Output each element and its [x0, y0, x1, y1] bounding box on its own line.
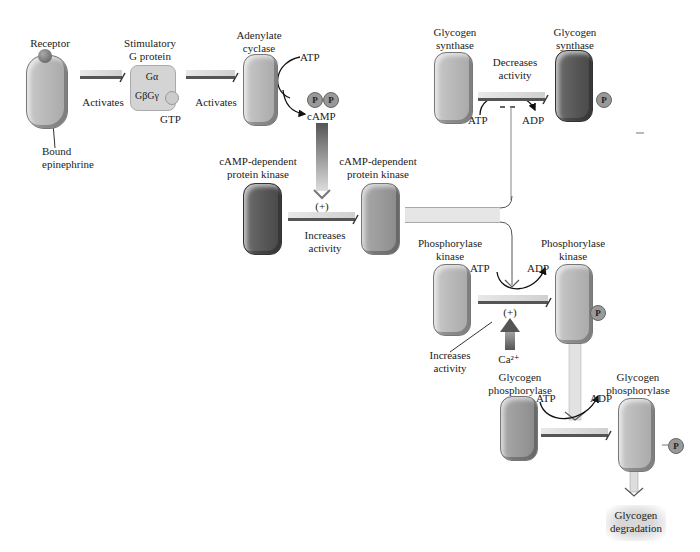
phk-label-1a: Phosphorylase: [415, 237, 485, 250]
camp-label: cAMP: [307, 110, 336, 123]
increases-label-2: Increases: [420, 349, 480, 362]
decreases-label-2: activity: [480, 69, 550, 82]
phk-bar: [478, 295, 548, 303]
degradation-label-1: Glycogen: [606, 509, 666, 522]
bound-label-1: Bound: [42, 145, 71, 158]
plus-label-1: (+): [312, 200, 332, 213]
calcium-label: Ca²⁺: [497, 353, 521, 366]
pathway-arrows: [0, 0, 700, 552]
gs-label-1a: Glycogen: [425, 26, 485, 39]
activates-label-2: Activates: [186, 96, 246, 109]
g-alpha-label: Gα: [140, 70, 164, 83]
pka-inactive-label-1: cAMP-dependent: [218, 155, 298, 168]
adenylate-cyclase: [243, 54, 278, 126]
gtp-label: GTP: [160, 113, 181, 126]
atp-gp-label: ATP: [536, 392, 556, 405]
gp-label-2b: phosphorylase: [603, 384, 673, 397]
activates-bar-1: [80, 70, 122, 78]
phosphorylase-kinase-active: [555, 264, 593, 344]
gp-label-1a: Glycogen: [485, 371, 555, 384]
phosphate-phk: P: [590, 305, 606, 321]
gs-label-1b: synthase: [425, 39, 485, 52]
epinephrine-ball: [38, 49, 52, 63]
increases-bar: [288, 212, 355, 220]
phk-label-2b: kinase: [538, 250, 608, 263]
gtp-molecule: [165, 91, 179, 105]
gp-bar: [541, 428, 608, 436]
pka-inactive-label-2: protein kinase: [218, 168, 298, 181]
activates-label-1: Activates: [73, 96, 133, 109]
stimulatory-label-1: Stimulatory: [120, 37, 180, 50]
glycogen-phosphorylase-active: [618, 398, 655, 472]
gp-label-2a: Glycogen: [603, 371, 673, 384]
glycogen-synthase-inactive: [555, 50, 593, 122]
atp-phk-label: ATP: [470, 262, 490, 275]
phosphorylase-kinase-inactive: [433, 264, 471, 336]
phosphate-gp: P: [668, 438, 684, 454]
pka-inactive: [243, 183, 282, 255]
activity-label-1: activity: [295, 242, 355, 255]
glycogen-phosphorylase-inactive: [500, 396, 538, 461]
g-beta-gamma-label: GβGγ: [130, 89, 164, 102]
phosphate-1: P: [307, 92, 323, 108]
pka-active-label-1: cAMP-dependent: [338, 155, 418, 168]
phosphate-2: P: [323, 92, 339, 108]
atp-gs-label: ATP: [468, 114, 488, 127]
decreases-label-1: Decreases: [480, 56, 550, 69]
increases-label-1: Increases: [295, 229, 355, 242]
activates-bar-2: [186, 70, 235, 78]
receptor-label: Receptor: [20, 37, 80, 50]
atp-label-top: ATP: [300, 51, 320, 64]
plus-label-2: (+): [500, 306, 520, 319]
phk-label-2a: Phosphorylase: [538, 237, 608, 250]
bound-label-2: epinephrine: [42, 158, 94, 171]
pka-active-label-2: protein kinase: [338, 168, 418, 181]
phosphate-gs: P: [596, 92, 612, 108]
adenylate-label-1: Adenylate: [234, 29, 284, 42]
adp-gs-label: ADP: [522, 114, 544, 127]
degradation-label-2: degradation: [606, 522, 666, 535]
stimulatory-label-2: G protein: [120, 50, 180, 63]
pka-active: [361, 183, 400, 255]
receptor: [26, 55, 68, 129]
activity-label-2: activity: [420, 362, 480, 375]
decreases-bar: [478, 92, 545, 100]
adp-phk-label: ADP: [527, 262, 549, 275]
gs-label-2a: Glycogen: [545, 26, 605, 39]
